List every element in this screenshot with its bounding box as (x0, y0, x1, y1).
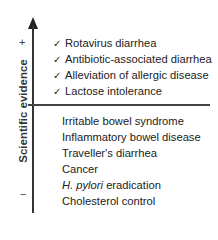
check-icon: ✓ (53, 70, 65, 81)
strong-item: ✓Alleviation of allergic disease (53, 69, 209, 81)
weak-item: Irritable bowel syndrome (62, 115, 184, 127)
plus-marker: + (19, 36, 25, 48)
weak-item: Cholesterol control (62, 195, 155, 207)
minus-marker: − (20, 188, 26, 200)
weak-item: Cancer (62, 163, 98, 175)
check-icon: ✓ (53, 38, 65, 49)
strong-item: ✓Lactose intolerance (53, 85, 162, 97)
check-icon: ✓ (53, 86, 65, 97)
weak-item: Traveller's diarrhea (62, 147, 157, 159)
vertical-axis (32, 26, 34, 213)
weak-item: H. pylori eradication (62, 179, 161, 191)
check-icon: ✓ (53, 54, 65, 65)
weak-item: Inflammatory bowel disease (62, 131, 201, 143)
strong-item: ✓Antibiotic-associated diarrhea (53, 53, 212, 65)
divider-line (28, 104, 210, 106)
y-axis-label: Scientific evidence (17, 51, 29, 171)
strong-item: ✓Rotavirus diarrhea (53, 37, 156, 49)
